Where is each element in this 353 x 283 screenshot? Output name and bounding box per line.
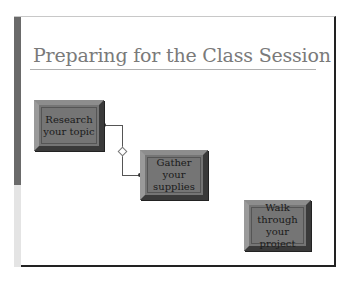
step-label-line: Research xyxy=(43,114,94,126)
step-box-research[interactable]: Research your topic xyxy=(34,100,104,151)
step-label: Walk through your project xyxy=(251,207,304,244)
step-label-line: Gather your xyxy=(148,157,200,181)
step-label: Research your topic xyxy=(41,107,97,144)
connector-line xyxy=(104,125,123,126)
step-label: Gather your supplies xyxy=(147,157,201,193)
step-label-line: your project xyxy=(252,226,303,250)
step-label-line: supplies xyxy=(148,181,200,193)
step-box-walk-through[interactable]: Walk through your project xyxy=(244,200,311,251)
step-box-gather[interactable]: Gather your supplies xyxy=(140,150,208,200)
slide-title: Preparing for the Class Session xyxy=(33,44,331,66)
step-label-line: your topic xyxy=(43,126,94,138)
left-accent-bar xyxy=(14,17,21,185)
step-label-line: through xyxy=(252,214,303,226)
title-underline xyxy=(30,69,316,70)
step-label-line: Walk xyxy=(252,202,303,214)
left-accent-bar-light xyxy=(14,185,21,267)
